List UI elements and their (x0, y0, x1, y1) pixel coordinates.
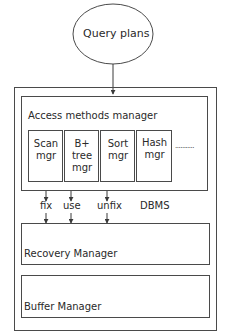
hash-mgr-label: Hash mgr (137, 137, 172, 161)
hash-mgr-line2: mgr (137, 149, 172, 161)
recovery-manager-label: Recovery Manager (24, 248, 117, 260)
scan-mgr-line1: Scan (29, 138, 63, 150)
sort-mgr-line1: Sort (101, 138, 135, 150)
use-label: use (63, 200, 81, 212)
more-modules-ellipsis: ........... (175, 140, 194, 152)
sort-mgr-line2: mgr (101, 150, 135, 162)
buffer-manager-label: Buffer Manager (24, 301, 101, 313)
unfix-label: unfix (97, 200, 122, 212)
query-plans-label: Query plans (83, 28, 149, 40)
sort-mgr-label: Sort mgr (101, 138, 135, 162)
dbms-label: DBMS (140, 200, 170, 212)
scan-mgr-label: Scan mgr (29, 138, 63, 162)
hash-mgr-line1: Hash (137, 137, 172, 149)
access-methods-title: Access methods manager (28, 110, 157, 122)
btree-mgr-line2: tree (65, 150, 99, 162)
scan-mgr-line2: mgr (29, 150, 63, 162)
diagram-canvas (0, 0, 226, 336)
btree-mgr-line3: mgr (65, 162, 99, 174)
btree-mgr-line1: B+ (65, 138, 99, 150)
fix-label: fix (40, 200, 52, 212)
btree-mgr-label: B+ tree mgr (65, 138, 99, 174)
